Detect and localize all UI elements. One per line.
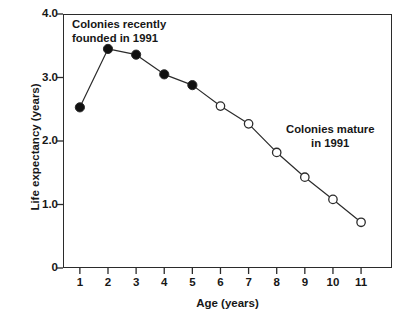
annotation-line: in 1991 [286, 136, 375, 150]
x-axis-tick-labels: 1234567891011 [0, 0, 413, 325]
annotation-line: founded in 1991 [72, 31, 166, 45]
chart-figure: 4.03.02.01.00 1234567891011 Life expecta… [0, 0, 413, 325]
x-tick-label: 2 [105, 276, 111, 288]
annotation-colonies-mature: Colonies mature in 1991 [286, 122, 375, 150]
x-tick-label: 6 [217, 276, 223, 288]
x-tick-label: 5 [189, 276, 195, 288]
x-tick-label: 8 [274, 276, 280, 288]
x-tick-label: 10 [327, 276, 340, 288]
x-tick-label: 3 [133, 276, 139, 288]
annotation-line: Colonies mature [286, 122, 375, 136]
x-tick-label: 4 [161, 276, 167, 288]
annotation-colonies-recently-founded: Colonies recently founded in 1991 [72, 17, 166, 45]
x-tick-label: 7 [245, 276, 251, 288]
x-tick-label: 9 [302, 276, 308, 288]
y-axis-title: Life expectancy (years) [29, 27, 41, 267]
x-tick-label: 11 [355, 276, 367, 288]
x-axis-title: Age (years) [63, 297, 392, 309]
annotation-line: Colonies recently [72, 17, 166, 31]
x-tick-label: 1 [77, 276, 83, 288]
